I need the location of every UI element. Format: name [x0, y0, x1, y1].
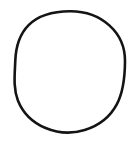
canvas-background — [0, 0, 137, 143]
drawing-canvas — [0, 0, 137, 143]
circle-figure — [0, 0, 137, 143]
